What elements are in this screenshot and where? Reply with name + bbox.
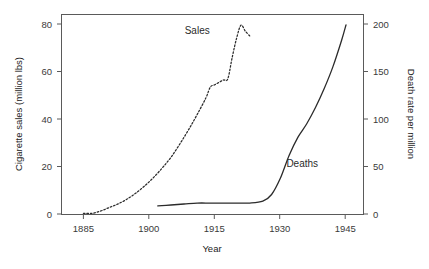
series-label-sales: Sales — [185, 25, 210, 36]
xtick-label-1885: 1885 — [73, 223, 94, 234]
xtick-label-1900: 1900 — [138, 223, 159, 234]
y2tick-label-150: 150 — [373, 66, 389, 77]
left-axis-ticks — [57, 24, 62, 214]
right-axis-tick-labels: 200 150 100 50 0 — [373, 19, 389, 220]
x-axis-title: Year — [202, 243, 221, 254]
y-axis-title: Cigarette sales (million lbs) — [13, 57, 24, 171]
y2tick-label-50: 50 — [373, 161, 384, 172]
left-axis-tick-labels: 80 60 40 20 0 — [41, 19, 52, 220]
xtick-label-1945: 1945 — [335, 223, 356, 234]
ytick-label-0: 0 — [47, 209, 52, 220]
ytick-label-40: 40 — [41, 114, 52, 125]
y2tick-label-100: 100 — [373, 114, 389, 125]
series-line-sales — [83, 25, 249, 213]
y2-axis-title: Death rate per million — [406, 69, 417, 159]
chart-figure: 80 60 40 20 0 200 150 100 50 0 — [0, 0, 429, 269]
x-axis-ticks — [83, 215, 345, 220]
xtick-label-1930: 1930 — [269, 223, 290, 234]
ytick-label-80: 80 — [41, 19, 52, 30]
y2tick-label-200: 200 — [373, 19, 389, 30]
y2tick-label-0: 0 — [373, 209, 378, 220]
ytick-label-60: 60 — [41, 66, 52, 77]
plot-frame — [62, 15, 364, 215]
series-label-deaths: Deaths — [286, 158, 318, 169]
ytick-label-20: 20 — [41, 161, 52, 172]
xtick-label-1915: 1915 — [204, 223, 225, 234]
x-axis-tick-labels: 1885 1900 1915 1930 1945 — [73, 223, 356, 234]
series-line-deaths — [158, 25, 346, 206]
right-axis-ticks — [364, 24, 369, 214]
chart-plot-area: 80 60 40 20 0 200 150 100 50 0 — [0, 0, 429, 269]
